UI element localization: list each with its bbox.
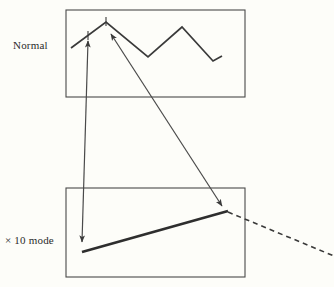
x10-expanded-trace bbox=[82, 211, 228, 252]
normal-panel-label: Normal bbox=[13, 39, 48, 51]
x10-mode-panel-label: × 10 mode bbox=[5, 234, 54, 246]
x10-dashed-continuation bbox=[228, 212, 334, 256]
normal-waveform bbox=[71, 22, 222, 61]
vertical-double-arrow bbox=[82, 41, 88, 242]
scan-expansion-diagram: Normal × 10 mode bbox=[0, 0, 334, 287]
diagonal-double-arrow bbox=[111, 34, 222, 206]
normal-panel-box bbox=[66, 10, 245, 97]
